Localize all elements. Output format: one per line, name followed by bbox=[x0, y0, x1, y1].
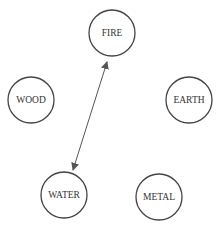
node-fire[interactable]: FIRE bbox=[89, 10, 135, 56]
node-earth[interactable]: EARTH bbox=[166, 77, 212, 123]
node-wood[interactable]: WOOD bbox=[8, 77, 54, 123]
node-water[interactable]: WATER bbox=[41, 172, 87, 218]
node-fire-label: FIRE bbox=[102, 28, 123, 38]
node-metal-label: METAL bbox=[143, 192, 175, 202]
node-wood-label: WOOD bbox=[16, 95, 46, 105]
node-water-label: WATER bbox=[48, 190, 80, 200]
diagram-canvas: FIRE WOOD EARTH WATER METAL bbox=[0, 0, 222, 229]
node-earth-label: EARTH bbox=[173, 95, 204, 105]
node-metal[interactable]: METAL bbox=[136, 174, 182, 220]
edge-fire-water bbox=[73, 62, 107, 170]
